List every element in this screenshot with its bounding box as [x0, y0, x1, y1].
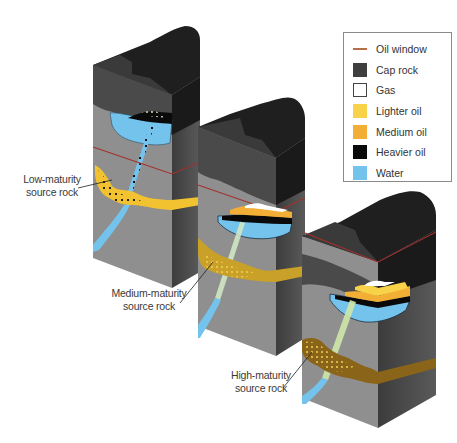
label-low-line1: Low-maturity — [14, 173, 90, 186]
gas-swatch-icon — [353, 83, 367, 97]
medium-oil-swatch-icon — [353, 125, 367, 139]
water-swatch-icon — [353, 166, 367, 180]
block-low-maturity — [93, 26, 200, 288]
block-high-maturity — [302, 191, 436, 428]
label-high-line2: source rock — [221, 382, 301, 395]
legend: Oil window Cap rock Gas Lighter oil Medi… — [343, 32, 452, 182]
legend-item-water: Water — [353, 163, 451, 184]
label-low-maturity: Low-maturity source rock — [14, 173, 90, 199]
label-low-line2: source rock — [14, 186, 90, 199]
label-medium-line1: Medium-maturity — [104, 287, 194, 300]
heavier-oil-swatch-icon — [353, 145, 367, 159]
legend-item-gas: Gas — [353, 80, 451, 101]
block-medium-maturity — [198, 97, 305, 356]
legend-item-heavier-oil: Heavier oil — [353, 142, 451, 163]
oil-window-line-icon — [353, 48, 367, 50]
legend-item-oil-window: Oil window — [353, 39, 451, 60]
legend-item-medium-oil: Medium oil — [353, 121, 451, 142]
label-high-line1: High-maturity — [221, 369, 301, 382]
legend-item-cap-rock: Cap rock — [353, 60, 451, 81]
label-medium-maturity: Medium-maturity source rock — [104, 287, 194, 313]
legend-item-lighter-oil: Lighter oil — [353, 101, 451, 122]
label-high-maturity: High-maturity source rock — [221, 369, 301, 395]
cap-rock-swatch-icon — [353, 63, 367, 77]
lighter-oil-swatch-icon — [353, 104, 367, 118]
label-medium-line2: source rock — [104, 300, 194, 313]
